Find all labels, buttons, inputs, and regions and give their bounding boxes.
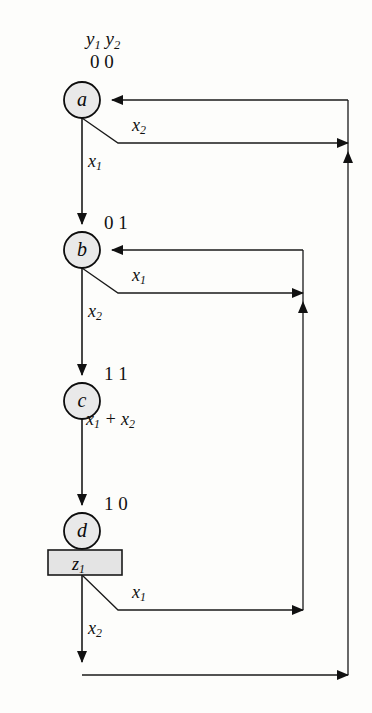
transition-label-b-x1: x1 <box>132 266 146 287</box>
transition-label-a-x2: x2 <box>132 116 146 137</box>
state-label-b: b <box>67 238 97 261</box>
transition-label-c-x1-plus-x2: x1 + x2 <box>86 410 135 431</box>
state-diagram-canvas: y1 y2 0 0 0 1 1 1 1 0 a b c d z1 x2 x1 x… <box>0 0 372 713</box>
flow-graph <box>0 0 372 713</box>
state-label-d: d <box>67 519 97 542</box>
state-code-a: 0 0 <box>90 52 114 71</box>
edge-d-x1-to-inner <box>82 575 303 610</box>
output-label-z1: z1 <box>72 554 85 577</box>
output-box-z1[interactable] <box>48 550 122 575</box>
state-code-b: 0 1 <box>104 213 128 232</box>
state-variable-header: y1 y2 <box>86 28 120 53</box>
transition-label-b-x2: x2 <box>88 302 102 323</box>
state-label-a: a <box>67 88 97 111</box>
transition-label-d-x1: x1 <box>132 583 146 604</box>
edge-a-x2-to-outer <box>82 118 348 143</box>
state-code-c: 1 1 <box>104 364 128 383</box>
transition-label-a-x1: x1 <box>88 152 102 173</box>
state-code-d: 1 0 <box>104 494 128 513</box>
transition-label-d-x2: x2 <box>88 619 102 640</box>
edge-b-x1-to-inner <box>82 268 303 293</box>
